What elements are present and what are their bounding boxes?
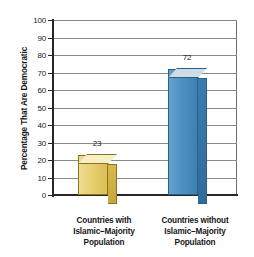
tick-70 [48, 73, 53, 74]
bar-side-face [198, 78, 207, 204]
y-tick-label-10: 10 [6, 174, 46, 183]
tick-50 [48, 108, 53, 109]
y-tick-label-90: 90 [6, 34, 46, 43]
bar-value-label: 72 [167, 53, 207, 62]
tick-80 [48, 55, 53, 56]
tick-0 [48, 195, 53, 196]
y-tick-label-70: 70 [6, 69, 46, 78]
tick-100 [48, 20, 53, 21]
y-tick-label-30: 30 [6, 139, 46, 148]
y-tick-label-100: 100 [6, 16, 46, 25]
bar-front-face [168, 69, 198, 195]
category-label-non-islamic-majority: Countries without Islamic–Majority Popul… [134, 215, 254, 248]
category-label-line3: Population [134, 237, 254, 248]
tick-30 [48, 143, 53, 144]
tick-10 [48, 178, 53, 179]
y-tick-label-80: 80 [6, 51, 46, 60]
bar-non-islamic-majority[interactable]: 72 [168, 20, 216, 205]
bar-value-label: 23 [77, 139, 117, 148]
bar-side-face [108, 164, 117, 204]
tick-40 [48, 125, 53, 126]
y-tick-label-0: 0 [6, 191, 46, 200]
bar-chart: Percentage That Are Democratic 100 90 80… [0, 0, 254, 257]
tick-90 [48, 38, 53, 39]
bar-islamic-majority[interactable]: 23 [78, 20, 126, 205]
tick-20 [48, 160, 53, 161]
category-label-line1: Countries without [134, 215, 254, 226]
y-tick-label-40: 40 [6, 121, 46, 130]
tick-60 [48, 90, 53, 91]
y-tick-label-20: 20 [6, 156, 46, 165]
y-tick-label-50: 50 [6, 104, 46, 113]
category-label-line2: Islamic–Majority [134, 226, 254, 237]
y-tick-label-60: 60 [6, 86, 46, 95]
